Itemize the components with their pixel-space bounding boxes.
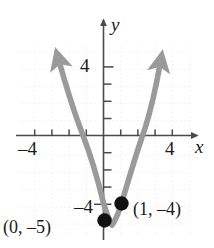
y-axis-tick-label-4: 4 [80, 56, 90, 75]
point-0-neg5 [97, 213, 111, 227]
x-axis-tick-label-4: 4 [165, 139, 175, 158]
x-axis-tick-label-neg4: –4 [18, 139, 37, 158]
y-axis-tick-label-neg4: –4 [74, 197, 93, 216]
y-axis-name-label: y [111, 15, 119, 34]
coordinate-graph [0, 0, 214, 248]
x-axis-name-label: x [195, 137, 203, 156]
point-1-neg4 [114, 196, 128, 210]
point-label-1-neg4: (1, –4) [133, 200, 181, 218]
point-label-0-neg5: (0, –5) [3, 218, 51, 236]
graph-figure-page: 4 –4 –4 4 y x (0, –5) (1, –4) [0, 0, 214, 248]
